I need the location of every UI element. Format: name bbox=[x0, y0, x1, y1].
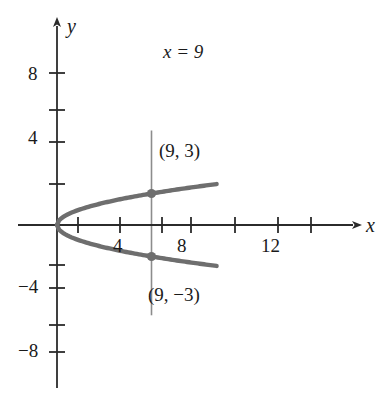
y-axis-label: y bbox=[67, 16, 76, 36]
parabola-lower-branch bbox=[57, 225, 217, 266]
data-point-9-minus3 bbox=[147, 252, 156, 261]
vertical-line-label: x = 9 bbox=[163, 42, 203, 61]
y-tick-label-minus-4: −4 bbox=[18, 277, 38, 296]
point-label-9-minus3: (9, −3) bbox=[148, 285, 200, 304]
y-tick-label-8: 8 bbox=[28, 64, 38, 83]
x-axis-label: x bbox=[366, 215, 375, 235]
graph-figure: 8 4 −4 −8 4 8 12 x y x = 9 (9, 3) (9, −3… bbox=[0, 0, 388, 406]
y-tick-label-4: 4 bbox=[28, 128, 38, 147]
point-label-9-3: (9, 3) bbox=[159, 141, 200, 160]
parabola-upper-branch bbox=[57, 184, 217, 225]
x-tick-label-8: 8 bbox=[177, 236, 187, 255]
data-point-9-3 bbox=[147, 189, 156, 198]
x-tick-label-4: 4 bbox=[113, 236, 123, 255]
x-tick-label-12: 12 bbox=[261, 236, 280, 255]
y-tick-label-minus-8: −8 bbox=[18, 341, 38, 360]
